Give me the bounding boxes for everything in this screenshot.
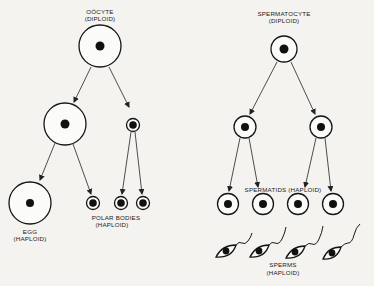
sperm-3 xyxy=(286,226,323,258)
egg-cell xyxy=(9,182,51,224)
arrow-to-egg xyxy=(40,143,55,180)
primary-spermatocyte-cell xyxy=(271,36,297,62)
polar-body-2 xyxy=(115,197,128,210)
arrow-to-second-polar-body xyxy=(73,144,91,194)
spermatocyte-ploidy-label: (DIPLOID) xyxy=(269,17,300,24)
spermatogenesis-tree: SPERMATOCYTE (DIPLOID) SPERMATIDS (HAPLO… xyxy=(216,10,360,276)
arrow-to-secondary-oocyte xyxy=(74,67,91,102)
polar-bodies-label: POLAR BODIES xyxy=(92,214,140,221)
oocyte-label: OÖCYTE xyxy=(86,8,113,15)
oogenesis-tree: OÖCYTE (DIPLOID) xyxy=(9,8,150,242)
spermatid-1 xyxy=(218,194,239,215)
arrow-to-secondary-spermatocyte-2 xyxy=(291,62,315,114)
arrow-to-secondary-spermatocyte-1 xyxy=(250,62,277,114)
arrow-to-spermatid-4 xyxy=(325,138,331,191)
oocyte-ploidy-label: (DIPLOID) xyxy=(85,15,116,22)
spermatocyte-label: SPERMATOCYTE xyxy=(257,10,310,17)
sperms-ploidy-label: (HAPLOID) xyxy=(266,269,299,276)
secondary-spermatocyte-1 xyxy=(234,116,256,138)
sperms-label: SPERMS xyxy=(269,261,296,268)
sperm-2 xyxy=(250,227,286,257)
arrow-to-spermatid-1 xyxy=(229,138,240,191)
egg-ploidy-label: (HAPLOID) xyxy=(13,235,46,242)
arrow-to-polar-body-3 xyxy=(135,132,142,194)
sperm-4 xyxy=(323,224,360,259)
polar-bodies-ploidy-label: (HAPLOID) xyxy=(95,221,128,228)
spermatid-3 xyxy=(288,194,309,215)
polar-body-3 xyxy=(137,197,150,210)
sperm-1 xyxy=(216,233,252,257)
secondary-oocyte-cell xyxy=(44,103,86,145)
diagram-canvas: OÖCYTE (DIPLOID) xyxy=(0,0,374,286)
polar-body-1 xyxy=(87,197,100,210)
meiosis-diagram: OÖCYTE (DIPLOID) xyxy=(0,0,374,286)
spermatids-label: SPERMATIDS (HAPLOID) xyxy=(245,186,322,193)
spermatid-4 xyxy=(323,194,344,215)
primary-oocyte-cell xyxy=(79,25,121,67)
arrow-to-spermatid-2 xyxy=(249,138,258,187)
arrow-to-polar-body-2 xyxy=(122,132,131,194)
spermatid-2 xyxy=(253,194,274,215)
arrow-to-first-polar-body xyxy=(109,67,129,107)
egg-label: EGG xyxy=(23,228,37,235)
first-polar-body-cell xyxy=(127,119,140,132)
secondary-spermatocyte-2 xyxy=(310,116,332,138)
arrow-to-spermatid-3 xyxy=(305,138,316,187)
